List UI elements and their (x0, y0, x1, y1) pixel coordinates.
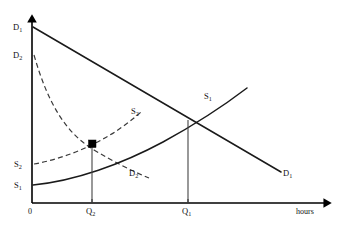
x-label-q1: Q1 (182, 206, 191, 217)
x-axis-title: hours (296, 207, 314, 216)
y-label-s1: S1 (14, 180, 22, 191)
curve-label-s1: S1 (204, 91, 212, 102)
x-axis-labels: 0 Q2 Q1 hours (28, 206, 314, 217)
chart-canvas: D1 D2 S2 S1 D1 D2 S1 S2 0 Q2 Q1 hours (0, 0, 343, 225)
y-axis-labels: D1 D2 S2 S1 (13, 22, 22, 191)
equilibrium-group (89, 120, 189, 203)
supply-demand-chart: D1 D2 S2 S1 D1 D2 S1 S2 0 Q2 Q1 hours (0, 0, 343, 225)
demand-curve-d1 (33, 27, 281, 172)
supply-curve-s2 (34, 112, 141, 164)
y-label-d1: D1 (13, 22, 22, 33)
origin-label: 0 (28, 207, 32, 216)
curve-label-d2: D2 (129, 168, 138, 179)
x-label-q2: Q2 (86, 206, 95, 217)
curve-label-d1: D1 (283, 168, 292, 179)
curve-labels: D1 D2 S1 S2 (129, 91, 292, 179)
equilibrium-marker-e2 (89, 140, 97, 148)
curves-group (33, 27, 281, 185)
y-label-s2: S2 (14, 159, 22, 170)
supply-curve-s1 (33, 88, 247, 185)
y-label-d2: D2 (13, 50, 22, 61)
curve-label-s2: S2 (131, 106, 139, 117)
